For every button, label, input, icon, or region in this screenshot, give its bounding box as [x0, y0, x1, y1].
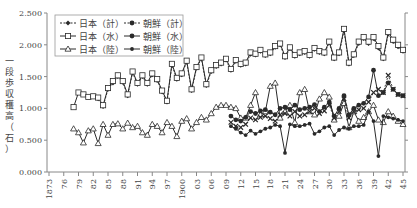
square-marker: [287, 45, 292, 50]
square-marker: [341, 26, 346, 31]
y-label-char: 高: [5, 110, 14, 121]
square-marker: [395, 42, 400, 47]
circle-marker: [253, 111, 258, 116]
triangle-marker: [95, 140, 101, 145]
x-tick-label: 76: [60, 179, 69, 189]
square-marker: [243, 60, 248, 65]
circle-marker: [248, 109, 253, 114]
x-tick-label: 39: [370, 179, 379, 189]
triangle-marker: [125, 120, 131, 125]
triangle-marker: [248, 102, 254, 107]
square-marker: [120, 78, 125, 83]
triangle-marker: [198, 114, 204, 119]
square-marker: [228, 66, 233, 71]
x-tick-label: 97: [163, 179, 172, 189]
legend-label: 日本（計）: [79, 18, 124, 29]
square-marker: [164, 98, 169, 103]
x-tick-label: 1900: [178, 179, 187, 199]
y-label-char: 収: [5, 88, 14, 99]
triangle-marker: [174, 133, 180, 138]
circle-marker: [401, 119, 405, 123]
x-tick-label: 12: [237, 179, 246, 189]
legend-label: 日本（陸）: [79, 44, 124, 55]
square-marker: [233, 57, 238, 62]
square-marker: [91, 94, 96, 99]
square-marker: [361, 35, 366, 40]
circle-marker: [288, 107, 293, 112]
circle-marker: [303, 123, 307, 127]
y-tick-label: 0.500: [19, 136, 42, 145]
circle-marker: [376, 93, 381, 98]
y-label-char: 一: [5, 56, 14, 66]
circle-marker: [352, 124, 356, 128]
triangle-marker: [292, 119, 298, 124]
y-label-char: 歩: [5, 77, 14, 88]
circle-marker: [356, 103, 361, 108]
x-tick-label: 1873: [45, 179, 54, 199]
circle-marker: [229, 114, 234, 119]
square-marker: [351, 52, 356, 57]
square-marker: [292, 52, 297, 57]
circle-marker: [273, 112, 278, 117]
circle-marker: [361, 101, 366, 106]
y-tick-label: 1.000: [19, 104, 42, 113]
circle-marker: [278, 106, 283, 111]
square-marker: [155, 77, 160, 82]
square-marker: [253, 51, 258, 56]
square-marker: [366, 39, 371, 44]
x-tick-label: 30: [325, 179, 334, 189]
triangle-marker: [302, 86, 308, 91]
circle-marker: [357, 124, 361, 128]
circle-marker: [283, 151, 287, 155]
square-marker: [297, 50, 302, 55]
circle-marker: [278, 124, 282, 128]
circle-marker: [244, 133, 248, 137]
square-marker: [150, 71, 155, 76]
x-marker: [243, 122, 248, 127]
triangle-marker: [71, 126, 77, 131]
square-marker: [248, 50, 253, 55]
circle-marker: [130, 21, 135, 26]
circle-marker: [298, 124, 302, 128]
circle-marker: [342, 126, 346, 130]
square-marker: [282, 54, 287, 59]
circle-marker: [313, 132, 317, 136]
x-tick-label: 94: [148, 179, 157, 189]
square-marker: [307, 52, 312, 57]
x-tick-label: 36: [355, 179, 364, 189]
x-tick-label: 33: [340, 179, 349, 189]
circle-marker: [243, 115, 248, 120]
x-tick-label: 45: [399, 179, 408, 189]
x-marker: [238, 125, 243, 130]
circle-marker: [297, 107, 302, 112]
square-marker: [322, 50, 327, 55]
square-marker: [386, 29, 391, 34]
x-marker: [288, 114, 293, 119]
triangle-marker: [267, 83, 273, 88]
circle-marker: [371, 68, 376, 73]
circle-marker: [263, 107, 268, 112]
square-marker: [263, 52, 268, 57]
circle-marker: [332, 133, 336, 137]
square-marker: [356, 39, 361, 44]
legend-label: 朝鮮（陸）: [143, 44, 188, 55]
y-label-char: 石: [5, 133, 14, 143]
circle-marker: [302, 106, 307, 111]
legend: 日本（計）朝鮮（計）日本（水）朝鮮（水）日本（陸）朝鮮（陸）: [55, 15, 188, 56]
square-marker: [174, 75, 179, 80]
circle-marker: [308, 122, 312, 126]
x-tick-label: 79: [75, 179, 84, 189]
square-marker: [76, 90, 81, 95]
circle-marker: [273, 123, 277, 127]
y-label-char: 穫: [5, 99, 14, 110]
square-marker: [100, 103, 105, 108]
triangle-marker: [272, 80, 278, 85]
square-marker: [86, 94, 91, 99]
square-marker: [159, 88, 164, 93]
square-marker: [258, 47, 263, 52]
triangle-marker: [321, 90, 327, 95]
circle-marker: [381, 114, 385, 118]
chart-canvas: 一段歩収穫高（石） 0.0000.5001.0001.5002.0002.500…: [0, 0, 417, 208]
square-marker: [400, 47, 405, 52]
circle-marker: [268, 126, 272, 130]
